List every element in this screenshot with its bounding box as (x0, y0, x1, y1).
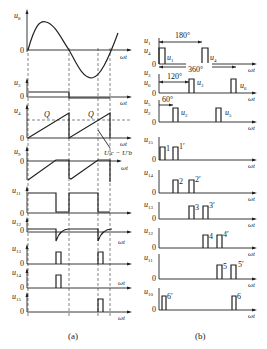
uc-ub-label: U′c − U′b (104, 149, 133, 157)
caption-a: (a) (68, 331, 78, 341)
label-u3: u3 (144, 68, 151, 78)
label-u4: u4 (144, 46, 151, 56)
label-u4: u4 (14, 106, 21, 116)
signal-u14: u14 0 ωt (12, 268, 132, 292)
label-u9: u9 (14, 147, 21, 157)
pulse-u5: u5 (225, 108, 232, 118)
panel-b: 180° u1 u4 u1 u4 0 360° ωt 120° u3 u6 u3 (144, 31, 257, 341)
label-u15: u15 (144, 135, 154, 145)
pulse-u2: u2 (181, 108, 188, 118)
axis-label: ωt (120, 140, 128, 148)
axis-label: ωt (248, 124, 256, 132)
pulse-2: 2 (179, 177, 183, 186)
row-u12: u12 4 4′ 0 ωt (144, 226, 257, 258)
axis-label: ωt (121, 164, 129, 172)
zero-label: 0 (152, 60, 156, 69)
pulse-u3: u3 (197, 78, 204, 88)
caption-b: (b) (195, 331, 206, 341)
pulse-3p: 3′ (209, 201, 215, 210)
zero-label: 0 (20, 157, 24, 166)
axis-label: ωt (248, 95, 256, 103)
pulse-u6: u6 (240, 81, 247, 91)
angle-360: 360° (188, 65, 203, 74)
row-u14: u14 2 2′ 0 ωt (144, 168, 257, 203)
axis-label: ωt (120, 53, 128, 61)
axis-label: ωt (248, 195, 256, 203)
label-u10: u10 (144, 287, 154, 297)
label-u8: u8 (14, 11, 21, 21)
signal-u15: u15 0 ωt (12, 292, 132, 322)
pulse-3: 3 (195, 203, 199, 212)
q-label: Q (44, 110, 50, 119)
label-u14: u14 (144, 168, 154, 178)
axis-label: ωt (248, 281, 256, 289)
label-u13: u13 (144, 200, 154, 210)
label-u11: u11 (144, 253, 153, 263)
zero-label: 0 (152, 214, 156, 223)
angle-180: 180° (175, 31, 190, 40)
label-u6: u6 (144, 78, 151, 88)
panel-a: u8 0 ωt u3 0 ωt u4 Q Q 0 ωt (12, 9, 133, 341)
pulse-6p: 6′ (167, 292, 173, 301)
zero-label: 0 (152, 89, 156, 98)
zero-label: 0 (20, 307, 24, 316)
axis-label: ωt (248, 66, 256, 74)
signal-u11: u11 0 (12, 186, 132, 218)
zero-label: 0 (152, 243, 156, 252)
pulse-4p: 4′ (223, 230, 229, 239)
label-u14: u14 (12, 268, 22, 278)
axis-label: ωt (248, 162, 256, 170)
pulse-5p: 5′ (238, 260, 244, 269)
q-label: Q (88, 110, 94, 119)
pulse-u4: u4 (210, 53, 217, 63)
label-u15: u15 (12, 292, 22, 302)
pulse-u1: u1 (167, 53, 174, 63)
pulse-1p: 1′ (179, 142, 185, 151)
zero-label: 0 (152, 118, 156, 127)
axis-label: ωt (118, 238, 126, 246)
zero-label: 0 (20, 134, 24, 143)
zero-label: 0 (20, 259, 24, 268)
signal-u3: u3 0 ωt (14, 78, 132, 107)
signal-u8: u8 0 ωt (14, 9, 132, 78)
axis-label: ωt (120, 99, 128, 107)
row-u5-u2: 60° u5 u2 u2 u5 0 ωt (144, 95, 257, 132)
label-u11: u11 (12, 186, 21, 196)
zero-label: 0 (152, 188, 156, 197)
pulse-1: 1 (166, 144, 170, 153)
axis-label: ωt (118, 314, 126, 322)
zero-label: 0 (20, 209, 24, 218)
zero-label: 0 (20, 46, 24, 55)
axis-label: ωt (248, 221, 256, 229)
row-u10: u10 6′ 6 0 ωt (144, 287, 257, 320)
zero-label: 0 (20, 92, 24, 101)
zero-label: 0 (20, 226, 24, 235)
waveform-diagram: u8 0 ωt u3 0 ωt u4 Q Q 0 ωt (0, 0, 267, 349)
signal-u12: u12 0 ωt (12, 217, 132, 246)
label-u13: u13 (12, 244, 22, 254)
zero-label: 0 (152, 155, 156, 164)
zero-label: 0 (20, 283, 24, 292)
label-u12: u12 (144, 226, 154, 236)
signal-u13: u13 0 (12, 244, 132, 268)
axis-label: ωt (248, 250, 256, 258)
zero-label: 0 (152, 274, 156, 283)
label-u2: u2 (144, 106, 151, 116)
row-u15: u15 1 1′ 0 ωt (144, 135, 257, 170)
axis-label: ωt (118, 279, 126, 287)
label-u3: u3 (14, 78, 21, 88)
label-u1: u1 (144, 36, 151, 46)
pulse-2p: 2′ (195, 175, 201, 184)
pulse-4: 4 (209, 232, 213, 241)
zero-label: 0 (152, 305, 156, 314)
row-u13: u13 3 3′ 0 ωt (144, 200, 257, 229)
signal-u4: u4 Q Q 0 ωt U′c − U′b (14, 104, 133, 157)
angle-60: 60° (162, 95, 173, 104)
row-u11: u11 5 5′ 0 ωt (144, 253, 257, 289)
angle-120: 120° (167, 72, 182, 81)
axis-label: ωt (248, 312, 256, 320)
pulse-6: 6 (237, 292, 241, 301)
pulse-5: 5 (223, 262, 227, 271)
